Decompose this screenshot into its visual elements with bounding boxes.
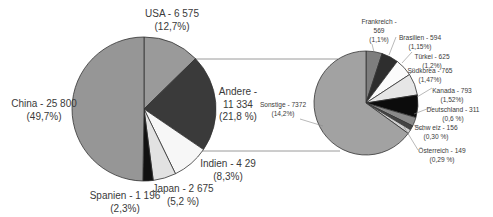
slice-label: Spanien - 1 196(2,3%) (90, 190, 161, 214)
leader-line (417, 88, 432, 97)
slice-label: Sonstige - 7372(14,2%) (260, 101, 307, 118)
slice-label: Deutschland - 311(0,6 %) (426, 106, 479, 123)
slice-label: China - 25 800(49,7%) (11, 98, 77, 122)
pie-of-pie-chart: USA - 6 575(12,7%)Andere -11 334(21,8 %)… (0, 0, 493, 217)
slice-label: Österreich - 149(0,29 %) (418, 147, 466, 164)
slice-label: USA - 6 575(12,7%) (145, 8, 199, 32)
main-pie (72, 37, 216, 181)
leader-line (372, 44, 374, 52)
slice-label: Andere -11 334(21,8 %) (219, 86, 257, 122)
slice-label: Südkorea - 765(1,47%) (407, 67, 452, 84)
slice-label: Brasilien - 594(1,15%) (399, 34, 441, 51)
slice-label: Schw eiz - 156(0,30 %) (414, 124, 458, 141)
slice-label: Indien - 4 29(8,3%) (200, 158, 256, 182)
slice-label: Frankreich -569(1,1%) (361, 18, 396, 44)
slice-label: Kanada - 793(1,52%) (432, 87, 472, 104)
slice-label: Japan - 2 675(5,2 %) (152, 183, 214, 207)
slice-china (72, 37, 144, 181)
leader-line (389, 37, 396, 55)
leader-line (402, 52, 412, 63)
breakdown-pie (314, 51, 418, 155)
